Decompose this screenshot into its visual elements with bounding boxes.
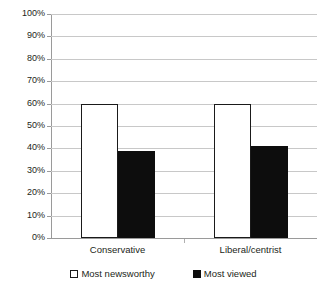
chart-legend: Most newsworthyMost viewed — [0, 269, 327, 279]
bar-conservative-most-viewed — [118, 151, 155, 238]
bar-conservative-most-newsworthy — [81, 104, 118, 238]
plot-area — [51, 14, 317, 238]
y-axis-tick-label: 100% — [1, 9, 45, 18]
gridline-80 — [51, 59, 317, 60]
legend-item-most-newsworthy[interactable]: Most newsworthy — [70, 269, 154, 279]
y-axis-tick-label: 40% — [1, 143, 45, 152]
gridline-90 — [51, 36, 317, 37]
gridline-100 — [51, 14, 317, 15]
legend-label: Most newsworthy — [81, 269, 154, 279]
x-axis-tick — [184, 239, 185, 243]
y-axis-tick-label: 20% — [1, 188, 45, 197]
x-axis-category-label: Conservative — [51, 244, 184, 255]
gridline-70 — [51, 81, 317, 82]
bar-liberal-centrist-most-viewed — [251, 146, 288, 238]
bar-chart: 0%10%20%30%40%50%60%70%80%90%100% Conser… — [0, 0, 327, 298]
y-axis-tick-label: 10% — [1, 211, 45, 220]
y-axis-tick-label: 60% — [1, 99, 45, 108]
y-axis-tick-label: 90% — [1, 31, 45, 40]
y-axis-tick-label: 80% — [1, 54, 45, 63]
y-axis-tick-label: 50% — [1, 121, 45, 130]
y-axis-tick-label: 30% — [1, 166, 45, 175]
legend-swatch-icon — [193, 270, 201, 278]
legend-item-most-viewed[interactable]: Most viewed — [193, 269, 257, 279]
x-axis-category-label: Liberal/centrist — [184, 244, 317, 255]
legend-swatch-icon — [70, 270, 78, 278]
legend-label: Most viewed — [204, 269, 257, 279]
y-axis-tick-label: 70% — [1, 76, 45, 85]
y-axis-tick-label: 0% — [1, 233, 45, 242]
bar-liberal-centrist-most-newsworthy — [214, 104, 251, 238]
